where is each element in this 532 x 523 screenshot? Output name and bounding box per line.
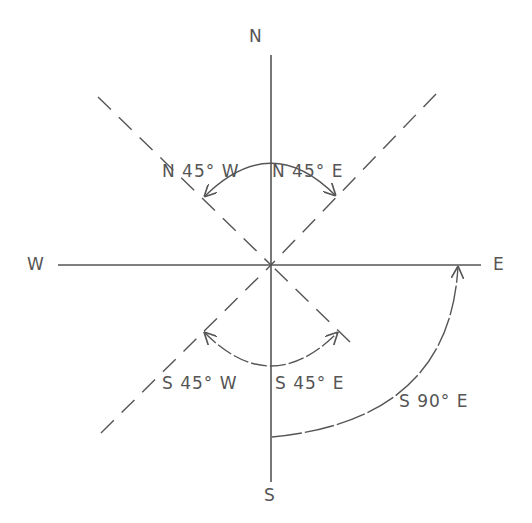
- diagonal-nw: [98, 97, 271, 265]
- label-s45w: S 45° W: [162, 375, 238, 392]
- label-s45e: S 45° E: [275, 375, 344, 392]
- label-north: N: [249, 28, 263, 45]
- label-south: S: [264, 487, 276, 504]
- label-n45w: N 45° W: [162, 163, 239, 180]
- diagonal-se: [271, 265, 350, 342]
- label-west: W: [27, 256, 45, 273]
- arc-s90e: [272, 266, 458, 437]
- label-n45e: N 45° E: [272, 163, 343, 180]
- label-s90e: S 90° E: [399, 393, 468, 410]
- compass-diagram: [0, 0, 532, 523]
- diagonal-sw: [101, 265, 271, 433]
- label-east: E: [493, 256, 505, 273]
